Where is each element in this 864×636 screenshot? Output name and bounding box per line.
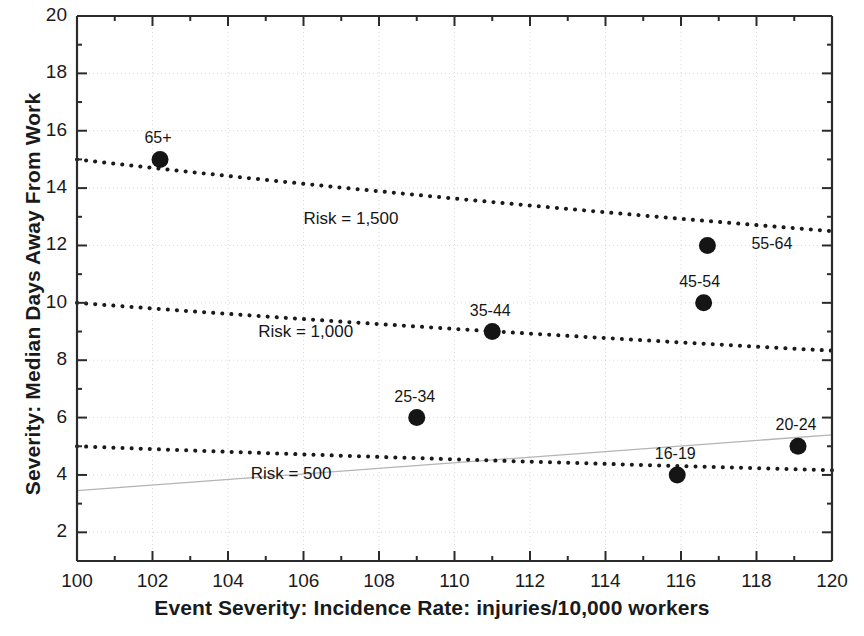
y-tick-label: 8 — [21, 348, 67, 370]
x-tick-label: 102 — [123, 570, 183, 592]
y-tick-label: 4 — [21, 463, 67, 485]
y-tick-label: 2 — [21, 520, 67, 542]
y-tick-label: 18 — [21, 61, 67, 83]
iso-risk-label: Risk = 1,500 — [304, 209, 399, 229]
y-tick-label: 14 — [21, 176, 67, 198]
x-axis-title: Event Severity: Incidence Rate: injuries… — [0, 596, 864, 620]
x-tick-label: 108 — [349, 570, 409, 592]
data-point-marker — [699, 237, 716, 254]
iso-risk-label: Risk = 1,000 — [258, 322, 353, 342]
x-tick-label: 116 — [651, 570, 711, 592]
x-tick-label: 100 — [47, 570, 107, 592]
data-point-marker — [484, 323, 501, 340]
data-point-marker — [669, 466, 686, 483]
data-point-label: 55-64 — [751, 235, 792, 253]
data-point-marker — [152, 151, 169, 168]
x-tick-label: 106 — [274, 570, 334, 592]
x-tick-label: 114 — [576, 570, 636, 592]
x-tick-label: 120 — [802, 570, 862, 592]
y-tick-label: 20 — [21, 4, 67, 26]
data-point-label: 25-34 — [355, 388, 475, 406]
data-point-label: 65+ — [98, 129, 218, 147]
x-tick-label: 110 — [425, 570, 485, 592]
data-point-label: 20-24 — [736, 416, 856, 434]
y-tick-label: 6 — [21, 406, 67, 428]
data-point-marker — [408, 409, 425, 426]
x-tick-label: 104 — [198, 570, 258, 592]
x-tick-label: 118 — [727, 570, 787, 592]
scatter-chart: Event Severity: Incidence Rate: injuries… — [0, 0, 864, 636]
y-tick-label: 12 — [21, 233, 67, 255]
data-point-label: 16-19 — [615, 445, 735, 463]
x-tick-label: 112 — [500, 570, 560, 592]
iso-risk-label: Risk = 500 — [251, 464, 332, 484]
data-point-marker — [790, 438, 807, 455]
data-point-marker — [695, 294, 712, 311]
data-point-label: 35-44 — [430, 302, 550, 320]
y-tick-label: 10 — [21, 291, 67, 313]
data-point-label: 45-54 — [640, 273, 760, 291]
y-tick-label: 16 — [21, 119, 67, 141]
